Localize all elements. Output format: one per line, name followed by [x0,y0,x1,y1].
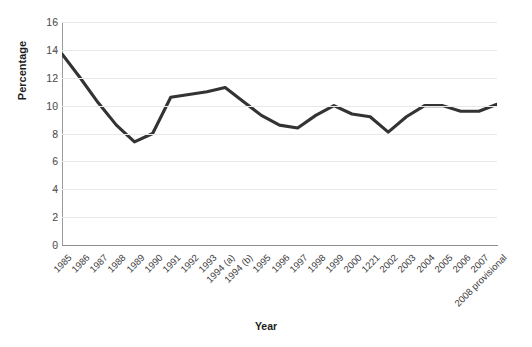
chart-title [0,0,532,5]
y-tick-label-16: 16 [18,16,58,28]
y-tick-label-2: 2 [18,211,58,223]
y-tick-mark-16 [54,22,58,23]
gridline-2 [62,217,497,218]
x-tick-label-1997: 1997 [287,252,310,275]
x-tick-label-1990: 1990 [142,252,165,275]
y-tick-mark-10 [54,106,58,107]
y-axis-ticks: 1614121086420 [14,22,58,246]
x-tick-label-1991: 1991 [160,252,183,275]
y-tick-label-10: 10 [18,100,58,112]
plot-area [62,22,497,245]
y-tick-label-14: 14 [18,44,58,56]
y-tick-mark-4 [54,189,58,190]
y-tick-label-8: 8 [18,128,58,140]
x-tick-label-1996: 1996 [269,252,292,275]
x-tick-label-1221: 1221 [359,252,382,275]
gridline-4 [62,189,497,190]
x-tick-label-1989: 1989 [124,252,147,275]
y-tick-mark-6 [54,161,58,162]
gridline-8 [62,134,497,135]
gridline-10 [62,106,497,107]
y-tick-mark-12 [54,78,58,79]
x-tick-label-2005: 2005 [432,252,455,275]
y-tick-label-12: 12 [18,72,58,84]
gridline-0 [62,245,497,246]
x-tick-label-2006: 2006 [450,252,473,275]
x-tick-label-1987: 1987 [87,252,110,275]
gridline-12 [62,78,497,79]
x-tick-label-2004: 2004 [414,252,437,275]
y-tick-label-4: 4 [18,183,58,195]
data-line-percentage [62,54,497,142]
y-tick-mark-0 [54,245,58,246]
x-tick-label-1999: 1999 [323,252,346,275]
y-tick-mark-2 [54,217,58,218]
y-tick-label-6: 6 [18,155,58,167]
x-tick-label-2003: 2003 [395,252,418,275]
gridline-6 [62,161,497,162]
x-axis-title: Year [0,320,532,332]
y-tick-mark-8 [54,134,58,135]
x-tick-label-1998: 1998 [305,252,328,275]
x-tick-label-1985: 1985 [51,252,74,275]
x-tick-label-1988: 1988 [105,252,128,275]
x-tick-label-1986: 1986 [69,252,92,275]
chart-figure: Percentage 1614121086420 198519861987198… [0,0,532,347]
y-tick-mark-14 [54,50,58,51]
x-tick-label-1992: 1992 [178,252,201,275]
x-tick-label-1995: 1995 [250,252,273,275]
x-tick-label-2000: 2000 [341,252,364,275]
gridline-14 [62,50,497,51]
gridline-16 [62,22,497,23]
x-tick-label-2002: 2002 [377,252,400,275]
